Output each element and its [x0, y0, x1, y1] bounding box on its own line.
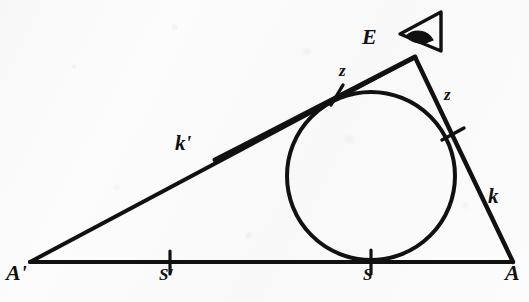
label-point-s-prime: S' — [159, 266, 173, 283]
label-tangent-right-z: z — [444, 86, 451, 103]
side-k-prime-thickening — [215, 57, 415, 160]
label-side-k-prime: k' — [175, 133, 191, 154]
geometry-drawing — [0, 0, 529, 302]
side-k-line — [415, 57, 513, 262]
label-apex-e: E — [362, 26, 377, 48]
label-vertex-a-prime: A' — [6, 262, 27, 284]
label-point-s: S — [363, 266, 372, 283]
eye-icon — [400, 12, 441, 51]
inscribed-circle — [287, 92, 455, 260]
label-vertex-a: A — [505, 262, 520, 284]
label-side-k: k — [488, 186, 499, 207]
figure-canvas: A' S' S A E k' k z z — [0, 0, 529, 302]
label-tangent-left-z: z — [339, 62, 346, 79]
